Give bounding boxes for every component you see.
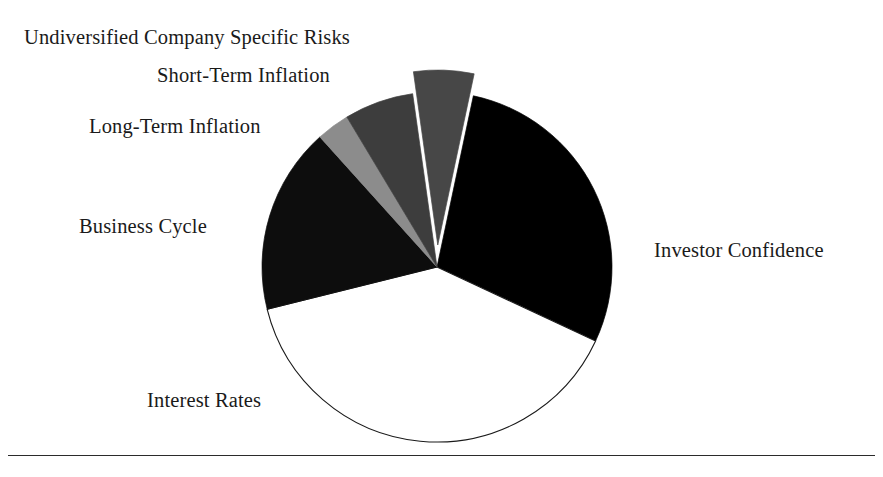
pie-label-short-term-inflation: Short-Term Inflation [157,64,330,86]
pie-label-undiversified-company-specific-risks: Undiversified Company Specific Risks [24,26,350,48]
pie-chart-figure: Investor ConfidenceInterest RatesBusines… [0,0,883,477]
pie-slice-group: Investor ConfidenceInterest RatesBusines… [262,70,612,442]
footer-divider-rule [8,455,875,456]
pie-label-long-term-inflation: Long-Term Inflation [89,115,261,137]
pie-label-business-cycle: Business Cycle [79,215,207,237]
pie-label-investor-confidence: Investor Confidence [654,239,824,261]
pie-label-interest-rates: Interest Rates [147,389,261,411]
